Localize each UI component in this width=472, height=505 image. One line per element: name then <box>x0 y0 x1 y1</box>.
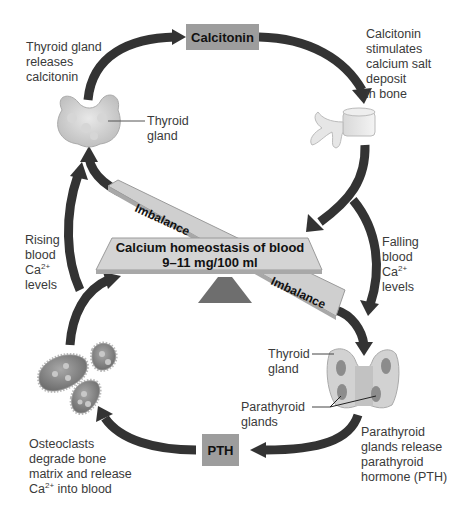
arrow-bone-to-balance <box>306 145 365 232</box>
arrow-thyroid-to-calcitonin <box>88 29 186 100</box>
falling-ca-label: Falling bloodCa2+levels <box>382 220 419 295</box>
homeostasis-range: 9–11 mg/100 ml <box>100 255 320 270</box>
pth-label: PTH <box>208 443 234 458</box>
thyroid-releases-label: Thyroid gland releases calcitonin <box>26 40 102 85</box>
thyroid-gland-label: Thyroid gland <box>147 114 189 144</box>
thyroid-gland-bottom-label: Thyroid gland <box>268 347 310 377</box>
parathyroid-illustration <box>312 349 399 408</box>
homeostasis-title: Calcium homeostasis of blood <box>100 240 320 255</box>
homeostasis-label: Calcium homeostasis of blood 9–11 mg/100… <box>100 240 320 270</box>
calcium-homeostasis-diagram: Imbalance Imbalance <box>0 0 472 505</box>
osteoclasts-label: Osteoclasts degrade bone matrix and rele… <box>29 422 132 497</box>
osteoclasts-illustration <box>39 343 116 413</box>
parathyroid-release-label: Parathyroid glands release parathyroid h… <box>361 425 447 485</box>
fulcrum <box>198 277 252 303</box>
arrow-calcitonin-to-bone <box>259 37 372 104</box>
pth-box: PTH <box>202 434 239 466</box>
bone-vertebra-illustration <box>311 108 375 148</box>
calcitonin-label: Calcitonin <box>191 30 254 45</box>
parathyroid-glands-label: Parathyroid glands <box>241 400 305 430</box>
rising-ca-label: Rising bloodCa2+levels <box>25 218 60 293</box>
arrow-rising-ca <box>68 162 88 290</box>
arrow-falling-ca <box>353 200 379 316</box>
calcitonin-stimulates-label: Calcitonin stimulates calcium salt depos… <box>366 27 431 102</box>
thyroid-gland-illustration <box>58 95 145 147</box>
calcitonin-box: Calcitonin <box>186 24 259 50</box>
